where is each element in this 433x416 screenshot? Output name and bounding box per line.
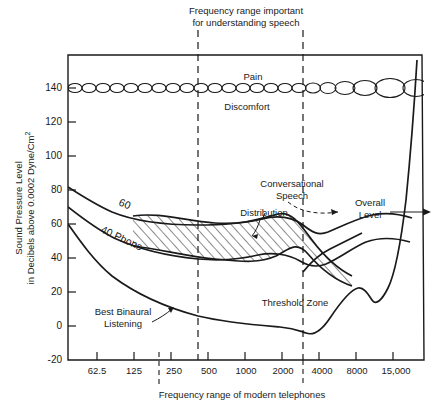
top-caption-line1: Frequency range important — [189, 5, 303, 16]
top-caption-line2: for understanding speech — [192, 17, 299, 28]
label-threshold-zone: Threshold Zone — [262, 297, 329, 308]
x-tick-62-5: 62.5 — [88, 365, 107, 376]
label-pain: Pain — [243, 71, 262, 82]
x-tick-15000: 15,000 — [381, 365, 410, 376]
y-tick-40: 40 — [51, 252, 63, 263]
y-axis-title-2: in Decibels above 0.0002 Dyne/Cm2 — [24, 131, 36, 284]
overall-level-arrowhead — [423, 209, 431, 216]
label-best-binaural-line1: Best Binaural — [95, 306, 152, 317]
y-tick-60: 60 — [51, 218, 63, 229]
conversational-speech-leader — [288, 202, 338, 213]
y-tick-80: 80 — [51, 184, 63, 195]
conversational-speech-arrowhead — [331, 209, 338, 215]
label-overall-level-line1: Overall — [355, 197, 385, 208]
x-tick-1000: 1000 — [235, 365, 256, 376]
y-axis-title-sup: 2 — [24, 131, 31, 135]
y-axis-title-line1: Sound Pressure Level — [13, 161, 24, 254]
label-discomfort: Discomfort — [224, 101, 270, 112]
y-axis-tick-labels: 140 120 100 80 60 40 20 0 -20 — [45, 82, 62, 365]
x-tick-125: 125 — [126, 365, 142, 376]
label-60-phons: 60 — [117, 196, 132, 212]
y-tick-120: 120 — [45, 116, 62, 127]
x-tick-8000: 8000 — [346, 365, 367, 376]
x-tick-4000: 4000 — [311, 365, 332, 376]
y-axis-title-line2-group: in Decibels above 0.0002 Dyne/Cm2 — [24, 131, 36, 284]
x-axis-ticks — [97, 352, 393, 360]
y-tick-140: 140 — [45, 82, 62, 93]
y-axis-title: Sound Pressure Level — [13, 161, 24, 254]
y-tick-20: 20 — [51, 286, 63, 297]
x-axis-tick-labels: 62.5 125 250 500 1000 2000 4000 8000 15,… — [88, 365, 411, 376]
label-best-binaural-line2: Listening — [104, 318, 142, 329]
x-tick-250: 250 — [166, 365, 182, 376]
label-conversational-speech-line1: Conversational — [260, 178, 323, 189]
x-axis-caption: Frequency range of modern telephones — [159, 389, 326, 400]
figure-container: Frequency range important for understand… — [0, 0, 433, 416]
sound-pressure-level-chart: Frequency range important for understand… — [0, 0, 433, 416]
y-tick-100: 100 — [45, 150, 62, 161]
label-conversational-speech-line2: Speech — [276, 190, 308, 201]
label-overall-level-line2: Level — [359, 209, 382, 220]
best-binaural-leader — [152, 309, 172, 322]
y-tick-minus20: -20 — [48, 354, 63, 365]
x-tick-2000: 2000 — [272, 365, 293, 376]
y-axis-title-line2: in Decibels above 0.0002 Dyne/Cm — [25, 135, 36, 284]
x-tick-500: 500 — [201, 365, 217, 376]
y-tick-0: 0 — [56, 320, 62, 331]
